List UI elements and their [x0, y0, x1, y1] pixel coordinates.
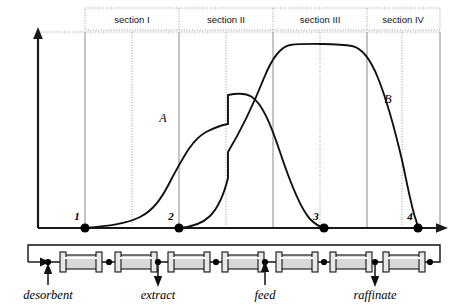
column-6-cap-left	[330, 252, 336, 272]
section-label-4: section IV	[382, 14, 424, 25]
column-1	[60, 252, 102, 272]
node-label-2: 2	[167, 210, 174, 222]
curve-label-b: B	[384, 92, 392, 106]
figure-canvas: section I section II section III section…	[0, 0, 451, 307]
desorbent-arrowhead	[44, 263, 52, 274]
x-axis-arrowhead	[436, 223, 448, 233]
node-label-1: 1	[74, 210, 80, 222]
column-2-cap-left	[115, 252, 121, 272]
section-header-band: section I section II section III section…	[85, 8, 440, 30]
section-label-3: section III	[300, 14, 341, 25]
curve-annotations: A B	[158, 92, 392, 125]
junction-node-2	[106, 259, 112, 265]
curve-label-a: A	[158, 111, 167, 125]
column-1-cap-right	[96, 252, 102, 272]
column-6-cap-right	[366, 252, 372, 272]
node-marker-3	[319, 223, 328, 232]
column-6	[330, 252, 372, 272]
node-marker-4	[413, 223, 422, 232]
column-4	[222, 252, 264, 272]
junction-node-6	[321, 259, 327, 265]
curve-a	[85, 94, 324, 228]
section-label-1: section I	[114, 14, 149, 25]
column-bank	[60, 252, 425, 272]
raffinate-arrowhead	[371, 276, 379, 287]
column-3-cap-left	[168, 252, 174, 272]
column-5-cap-right	[312, 252, 318, 272]
port-label-extract: extract	[141, 288, 176, 302]
extract-arrowhead	[154, 276, 162, 287]
node-label-4: 4	[406, 210, 413, 222]
node-marker-1	[80, 223, 89, 232]
column-3-cap-right	[204, 252, 210, 272]
section-label-2: section II	[207, 14, 245, 25]
junction-node-4	[213, 259, 219, 265]
column-2	[115, 252, 157, 272]
column-7-cap-right	[419, 252, 425, 272]
node-label-3: 3	[312, 210, 319, 222]
y-axis-arrowhead	[33, 27, 43, 39]
smb-figure: section I section II section III section…	[0, 0, 451, 307]
port-label-desorbent: desorbent	[23, 288, 73, 302]
port-label-raffinate: raffinate	[353, 288, 397, 302]
column-7	[383, 252, 425, 272]
column-7-cap-left	[383, 252, 389, 272]
node-marker-2	[174, 223, 183, 232]
junction-node-8	[427, 259, 433, 265]
port-label-feed: feed	[255, 288, 277, 302]
smb-unit-diagram: desorbent extract feed raffinate	[23, 245, 440, 302]
column-4-cap-left	[222, 252, 228, 272]
column-3	[168, 252, 210, 272]
column-5	[276, 252, 318, 272]
column-5-cap-left	[276, 252, 282, 272]
plot-gridlines	[38, 32, 440, 228]
column-1-cap-left	[60, 252, 66, 272]
concentration-curves	[85, 44, 418, 228]
